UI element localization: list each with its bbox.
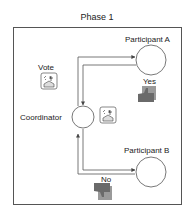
participant-a-label: Participant A	[125, 35, 170, 44]
no-label: No	[101, 175, 111, 184]
thumbs-up-icon	[138, 86, 156, 102]
yes-label: Yes	[143, 77, 156, 86]
participant-b-node	[136, 157, 166, 187]
participant-a-node	[136, 45, 166, 75]
participant-b-label: Participant B	[124, 146, 169, 155]
coordinator-label: Coordinator	[20, 113, 62, 122]
coordinator-node	[72, 106, 94, 128]
vote-label: Vote	[38, 63, 54, 72]
arrow-yes-from-a	[83, 65, 136, 105]
ballot-box-icon	[100, 107, 116, 123]
arrow-vote-to-a	[78, 57, 135, 106]
thumbs-down-icon	[94, 183, 112, 200]
diagram-canvas	[0, 0, 194, 223]
ballot-box-icon	[41, 73, 57, 89]
